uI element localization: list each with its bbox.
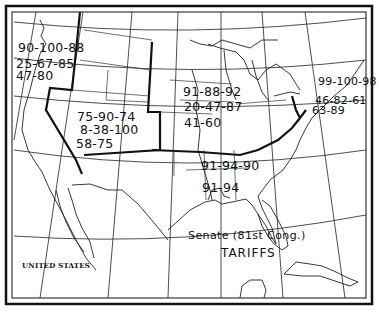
region-label-pacific-nw-line1: 90-100-88 bbox=[18, 42, 85, 55]
region-label-northeast-line1: 99-100-98 bbox=[318, 76, 377, 87]
region-label-mountain-line2: 8-38-100 bbox=[80, 124, 138, 137]
region-label-northeast-line3: 63-89 bbox=[312, 105, 345, 116]
region-label-midwest-line2: 20-47-87 bbox=[184, 101, 242, 114]
region-label-south-line2: 91-94 bbox=[202, 182, 239, 195]
region-label-pacific-nw-line3: 47-80 bbox=[16, 70, 53, 83]
map-title-line1: Senate (81st Cong.) bbox=[188, 230, 306, 241]
map-title-line2: TARIFFS bbox=[221, 247, 276, 259]
region-label-south-line1: 91-94-90 bbox=[201, 160, 259, 173]
country-label-united-states: UNITED STATES bbox=[22, 262, 90, 269]
region-label-mountain-line3: 58-75 bbox=[76, 138, 113, 151]
region-label-midwest-line3: 41-60 bbox=[184, 117, 221, 130]
region-label-midwest-line1: 91-88-92 bbox=[183, 86, 241, 99]
